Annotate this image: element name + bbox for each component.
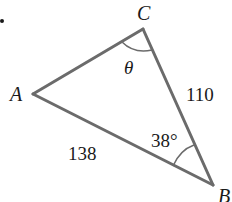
angle-label-theta: θ [124, 57, 133, 78]
side-cb [143, 29, 213, 185]
vertex-label-b: B [218, 185, 230, 202]
bullet-dot [0, 19, 4, 23]
angle-label-38: 38° [151, 130, 178, 151]
angle-arc-c [122, 42, 152, 51]
vertex-label-c: C [137, 2, 151, 24]
vertex-label-a: A [8, 83, 23, 105]
triangle-diagram: C A B θ 38° 110 138 [0, 0, 232, 202]
side-label-bc: 110 [186, 84, 214, 105]
side-ab [33, 94, 213, 185]
side-label-ab: 138 [68, 143, 97, 164]
